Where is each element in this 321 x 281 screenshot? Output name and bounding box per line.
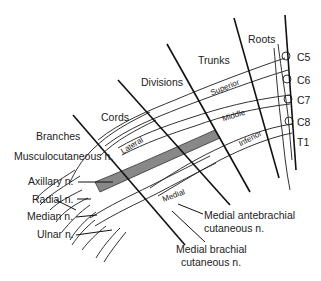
root-c7: C7 <box>297 94 310 106</box>
root-c5: C5 <box>297 51 310 63</box>
medial-antebrachial-line1: Medial antebrachial <box>204 209 295 221</box>
root-c8: C8 <box>297 116 310 128</box>
label-cords: Cords <box>101 111 129 123</box>
branch-axillary: Axillary n. <box>28 175 74 187</box>
label-trunks: Trunks <box>198 54 230 66</box>
root-c6: C6 <box>297 74 310 86</box>
branch-ulnar: Ulnar n. <box>37 228 74 240</box>
label-divisions: Divisions <box>141 76 183 88</box>
label-roots: Roots <box>248 33 275 45</box>
branch-musculocutaneous: Musculocutaneous n. <box>14 150 113 162</box>
medial-brachial-line1: Medial brachial <box>176 243 247 255</box>
root-t1: T1 <box>297 136 309 148</box>
label-branches: Branches <box>36 130 80 142</box>
branch-radial: Radial n. <box>32 193 73 205</box>
medial-antebrachial-line2: cutaneous n. <box>204 222 264 234</box>
medial-brachial-line2: cutaneous n. <box>181 256 241 268</box>
branch-median: Median n. <box>27 210 73 222</box>
